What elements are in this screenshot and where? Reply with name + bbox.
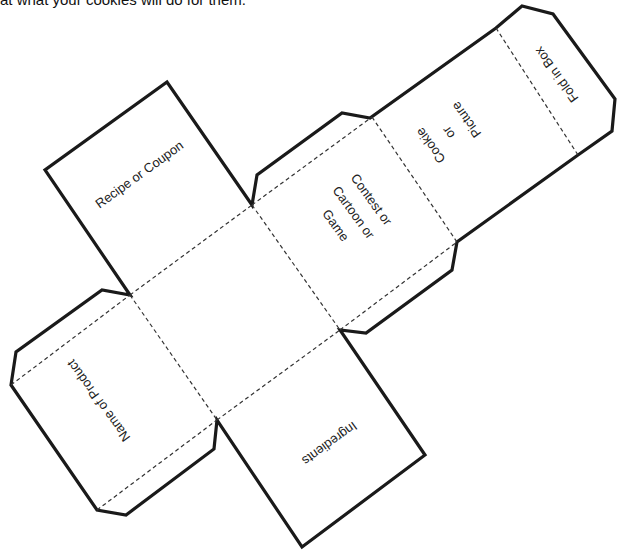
label-contest: Contest or Cartoon or Game	[312, 170, 396, 255]
label-fold-in-box: Fold in Box	[531, 44, 582, 106]
label-ingredients: Ingredients	[299, 419, 360, 469]
cookie-box-template: Recipe or Coupon Contest or Cartoon or G…	[0, 0, 623, 554]
fold-lines	[11, 28, 578, 510]
svg-text:or: or	[439, 123, 458, 142]
label-name-of-product: Name of Product	[63, 356, 133, 444]
label-cookie-picture: Cookie or Picture	[413, 99, 485, 166]
label-recipe-or-coupon: Recipe or Coupon	[93, 137, 187, 211]
